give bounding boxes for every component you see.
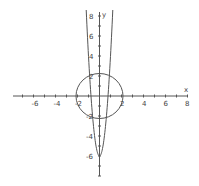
- x-tick-label: -4: [54, 100, 62, 108]
- x-tick-label: 4: [142, 100, 147, 108]
- x-tick-label: 8: [185, 100, 189, 108]
- y-tick-label: 2: [89, 73, 93, 81]
- x-tick-label: 6: [164, 100, 169, 108]
- x-tick-label: -2: [75, 100, 82, 108]
- x-tick-label: -6: [32, 100, 40, 108]
- x-axis-label: x: [184, 86, 188, 94]
- y-axis-label: y: [102, 11, 106, 19]
- y-tick-label: -2: [86, 113, 93, 121]
- y-tick-label: 8: [89, 13, 93, 21]
- x-tick-label: 2: [120, 100, 124, 108]
- y-tick-label: 6: [89, 33, 94, 41]
- y-tick-label: -4: [86, 133, 94, 141]
- y-tick-label: 4: [89, 53, 94, 61]
- y-tick-label: -6: [86, 153, 94, 161]
- graph-canvas: x y -6 -4 -2 2 4 6 8 8 6 4 2 -2 -4 -6: [0, 0, 199, 186]
